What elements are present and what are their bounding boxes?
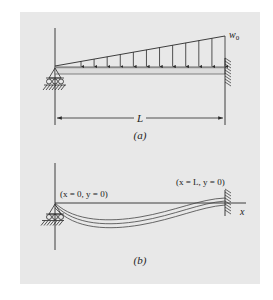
span-label: L [136, 112, 143, 124]
x-axis-label: x [239, 206, 245, 217]
left-boundary-condition: (x = 0, y = 0) [60, 189, 108, 199]
right-boundary-condition: (x = L, y = 0) [176, 177, 225, 187]
load-label-subscript: 0 [236, 34, 240, 42]
caption-a: (a) [134, 129, 147, 142]
caption-b: (b) [134, 254, 147, 267]
figure-panel [20, 12, 260, 284]
beam-figure: w0 L (a) x [0, 0, 273, 300]
